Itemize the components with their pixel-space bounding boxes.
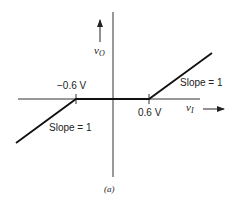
transfer-characteristic-diagram: vO vI −0.6 V 0.6 V Slope = 1 Slope = 1 (… bbox=[0, 0, 235, 208]
tick-label-right: 0.6 V bbox=[138, 107, 162, 118]
slope-label-left: Slope = 1 bbox=[49, 122, 92, 133]
figure-caption: (a) bbox=[104, 184, 115, 194]
transfer-curve bbox=[16, 53, 212, 143]
y-axis-label: vO bbox=[94, 44, 105, 58]
slope-label-right: Slope = 1 bbox=[180, 77, 223, 88]
tick-label-left: −0.6 V bbox=[57, 80, 87, 91]
x-axis-label: vI bbox=[186, 101, 194, 115]
